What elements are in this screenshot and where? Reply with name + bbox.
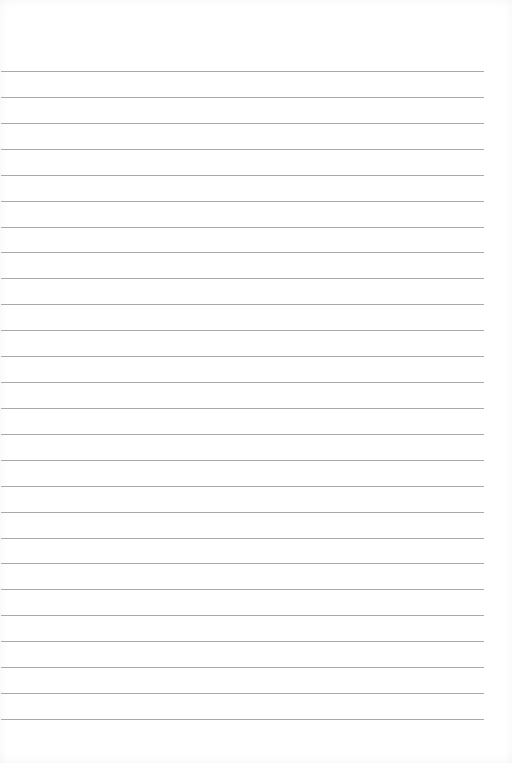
ruled-line bbox=[1, 227, 484, 228]
ruled-line bbox=[1, 408, 484, 409]
ruled-line bbox=[1, 512, 484, 513]
ruled-line bbox=[1, 615, 484, 616]
ruled-line bbox=[1, 97, 484, 98]
ruled-line bbox=[1, 356, 484, 357]
ruled-line bbox=[1, 719, 484, 720]
ruled-line bbox=[1, 382, 484, 383]
ruled-line bbox=[1, 460, 484, 461]
ruled-line bbox=[1, 71, 484, 72]
ruled-line bbox=[1, 278, 484, 279]
ruled-line bbox=[1, 123, 484, 124]
lined-paper-page bbox=[0, 0, 512, 763]
ruled-line bbox=[1, 149, 484, 150]
ruled-line bbox=[1, 667, 484, 668]
ruled-line bbox=[1, 201, 484, 202]
ruled-line bbox=[1, 175, 484, 176]
ruled-line bbox=[1, 304, 484, 305]
ruled-line bbox=[1, 538, 484, 539]
ruled-line bbox=[1, 252, 484, 253]
ruled-line bbox=[1, 330, 484, 331]
ruled-line bbox=[1, 693, 484, 694]
ruled-line bbox=[1, 641, 484, 642]
ruled-line bbox=[1, 486, 484, 487]
ruled-line bbox=[1, 434, 484, 435]
ruled-line bbox=[1, 589, 484, 590]
ruled-line bbox=[1, 563, 484, 564]
